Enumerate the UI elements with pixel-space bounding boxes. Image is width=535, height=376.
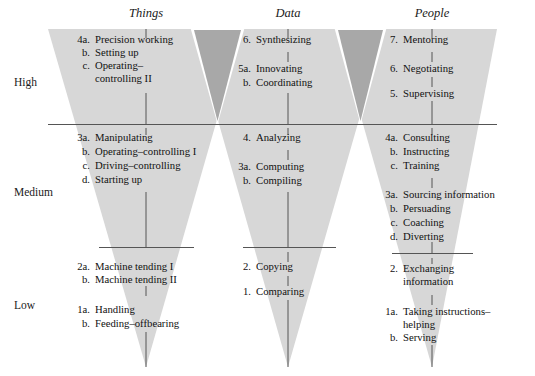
entry-label: Instructing xyxy=(403,145,449,158)
entry-data-low-0: 2. Copying xyxy=(256,260,293,273)
entry-number: 2. xyxy=(243,260,251,273)
entry-label: Analyzing xyxy=(256,131,301,144)
entry-number: 5. xyxy=(390,87,398,100)
entry-number: b. xyxy=(390,202,398,215)
entry-number: 6. xyxy=(243,33,251,46)
entry-label: Setting up xyxy=(95,46,139,59)
entry-number: 3a. xyxy=(77,131,90,144)
entry-number: c. xyxy=(83,159,90,172)
entry-label: Coaching xyxy=(403,216,444,229)
entry-things-low-3: b. Feeding–offbearing xyxy=(95,317,179,330)
entry-label: Machine tending I xyxy=(95,260,173,273)
entry-people-low-1: 1a. Taking instructions– helping xyxy=(403,305,490,330)
entry-label: Training xyxy=(403,159,439,172)
entry-label: Persuading xyxy=(403,202,451,215)
entry-number: 3a. xyxy=(385,188,398,201)
entry-people-medium-6: d. Diverting xyxy=(403,230,444,243)
figure-canvas: Things Data People High Medium Low 4a. P… xyxy=(0,0,535,376)
entry-data-medium-0: 4. Analyzing xyxy=(256,131,301,144)
entry-people-medium-2: c. Training xyxy=(403,159,439,172)
entry-label: Machine tending II xyxy=(95,273,177,286)
entry-number: 5a. xyxy=(238,62,251,75)
entry-label-cont: helping xyxy=(403,318,490,331)
entry-number: 2. xyxy=(390,262,398,275)
entry-things-low-1: b. Machine tending II xyxy=(95,273,177,286)
entry-label: Driving–controlling xyxy=(95,159,181,172)
entry-label-cont: information xyxy=(403,275,454,288)
entry-label: Manipulating xyxy=(95,131,153,144)
entry-number: b. xyxy=(82,273,90,286)
entry-number: 1. xyxy=(243,285,251,298)
entry-number: d. xyxy=(82,173,90,186)
entry-things-medium-1: b. Operating–controlling I xyxy=(95,145,196,158)
entry-label: Precision working xyxy=(95,33,173,46)
entry-things-medium-0: 3a. Manipulating xyxy=(95,131,153,144)
entry-number: c. xyxy=(83,59,90,72)
entry-number: 4a. xyxy=(385,131,398,144)
entry-number: 7. xyxy=(390,33,398,46)
entry-number: 2a. xyxy=(77,260,90,273)
entry-data-medium-2: b. Compiling xyxy=(256,174,302,187)
entry-data-high-2: b. Coordinating xyxy=(256,76,312,89)
entry-label: Taking instructions– xyxy=(403,305,490,318)
entry-people-low-0: 2. Exchanging information xyxy=(403,262,454,287)
entry-people-medium-5: c. Coaching xyxy=(403,216,444,229)
entry-number: c. xyxy=(391,159,398,172)
entry-number: b. xyxy=(243,174,251,187)
entry-people-medium-1: b. Instructing xyxy=(403,145,449,158)
entry-label: Sourcing information xyxy=(403,188,495,201)
level-label-medium: Medium xyxy=(14,186,53,198)
entry-label: Operating– xyxy=(95,59,152,72)
entry-things-high-0: 4a. Precision working xyxy=(95,33,173,46)
entry-label: Computing xyxy=(256,160,304,173)
entry-number: 3a. xyxy=(238,160,251,173)
entry-number: b. xyxy=(390,331,398,344)
entry-label: Consulting xyxy=(403,131,450,144)
entry-label: Operating–controlling I xyxy=(95,145,196,158)
entry-label: Compiling xyxy=(256,174,302,187)
entry-number: b. xyxy=(390,145,398,158)
entry-label: Innovating xyxy=(256,62,302,75)
entry-things-medium-3: d. Starting up xyxy=(95,173,142,186)
entry-label: Supervising xyxy=(403,87,454,100)
entry-number: 1a. xyxy=(77,303,90,316)
entry-label: Starting up xyxy=(95,173,142,186)
entry-number: b. xyxy=(82,145,90,158)
entry-things-medium-2: c. Driving–controlling xyxy=(95,159,181,172)
entry-people-low-2: b. Serving xyxy=(403,331,436,344)
entry-people-high-0: 7. Mentoring xyxy=(403,33,448,46)
entry-things-low-0: 2a. Machine tending I xyxy=(95,260,173,273)
entry-label: Handling xyxy=(95,303,135,316)
level-label-low: Low xyxy=(14,299,35,311)
entry-things-low-2: 1a. Handling xyxy=(95,303,135,316)
entry-people-medium-3: 3a. Sourcing information xyxy=(403,188,495,201)
entry-people-medium-4: b. Persuading xyxy=(403,202,451,215)
entry-label-cont: controlling II xyxy=(95,72,152,85)
entry-things-high-1: b. Setting up xyxy=(95,46,139,59)
column-header-people: People xyxy=(415,6,450,21)
entry-number: d. xyxy=(390,230,398,243)
entry-people-high-2: 5. Supervising xyxy=(403,87,454,100)
entry-things-high-2: c. Operating– controlling II xyxy=(95,59,152,84)
entry-label: Coordinating xyxy=(256,76,312,89)
entry-people-high-1: 6. Negotiating xyxy=(403,62,453,75)
entry-number: c. xyxy=(391,216,398,229)
entry-number: b. xyxy=(243,76,251,89)
entry-people-medium-0: 4a. Consulting xyxy=(403,131,450,144)
entry-number: b. xyxy=(82,46,90,59)
entry-number: 4. xyxy=(243,131,251,144)
entry-label: Mentoring xyxy=(403,33,448,46)
level-label-high: High xyxy=(14,76,37,88)
entry-number: 4a. xyxy=(77,33,90,46)
entry-data-high-0: 6. Synthesizing xyxy=(256,33,311,46)
column-header-things: Things xyxy=(129,6,163,21)
entry-label: Comparing xyxy=(256,285,304,298)
entry-data-medium-1: 3a. Computing xyxy=(256,160,304,173)
entry-label: Copying xyxy=(256,260,293,273)
entry-label: Serving xyxy=(403,331,436,344)
entry-data-high-1: 5a. Innovating xyxy=(256,62,302,75)
entry-number: 1a. xyxy=(385,305,398,318)
entry-label: Diverting xyxy=(403,230,444,243)
entry-label: Negotiating xyxy=(403,62,453,75)
entry-number: b. xyxy=(82,317,90,330)
